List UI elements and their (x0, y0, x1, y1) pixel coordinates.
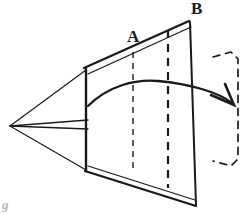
apex-to-bottom-front-edge (10, 126, 86, 170)
vertex-label-a: A (127, 28, 139, 45)
hidden-construction-lines-group (133, 30, 168, 188)
wedge-diagram-svg (0, 0, 246, 214)
vertex-label-b: B (191, 0, 202, 17)
bottom-ridge-inner-line (88, 166, 195, 200)
dashed-bracket-outline (213, 52, 238, 166)
apex-sliver-upper-line (10, 120, 88, 126)
bottom-ridge-outer-line (85, 171, 196, 206)
dashed-bracket-group (213, 52, 238, 166)
rotation-arc (88, 81, 232, 106)
back-face-right-edge (190, 22, 196, 205)
figure-root: A B g (0, 0, 246, 214)
top-ridge-inner-line (88, 27, 191, 74)
rotation-arrow-group (88, 81, 234, 106)
apex-to-top-front-edge (10, 70, 86, 126)
apex-sliver-lower-line (10, 126, 88, 129)
corner-annotation: g (2, 198, 11, 211)
